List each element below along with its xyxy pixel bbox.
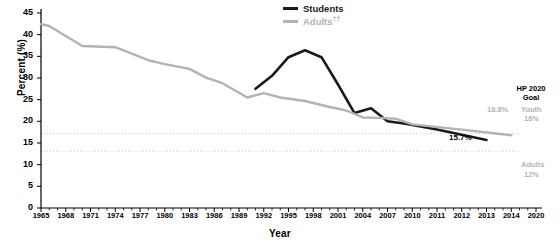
y-tick-label: 0	[7, 203, 33, 212]
legend-label-adults-text: Adults	[303, 17, 333, 28]
youth-goal-value: 16%	[524, 114, 539, 123]
students-last-value-label: 15.7%	[449, 133, 472, 142]
y-tick-label: 30	[7, 73, 33, 82]
legend-swatch-students	[283, 7, 298, 10]
adults-goal-value: 12%	[524, 170, 539, 179]
hp-2020-goal-annotation: HP 2020 Goal	[505, 84, 557, 102]
legend-item-adults[interactable]: Adults††	[283, 15, 344, 28]
legend-label-students: Students	[303, 3, 344, 14]
hp-2020-goal-title: HP 2020	[505, 84, 557, 93]
series-line-adults	[41, 24, 511, 135]
chart-legend: Students Adults††	[283, 2, 344, 28]
y-tick-label: 5	[7, 181, 33, 190]
y-tick-label: 20	[7, 116, 33, 125]
youth-goal-label: Youth	[521, 105, 542, 114]
legend-swatch-adults	[283, 20, 298, 23]
adults-last-value-label: 18.8%	[487, 105, 508, 114]
legend-label-adults-superscript: ††	[333, 15, 341, 22]
y-tick-label: 10	[7, 160, 33, 169]
chart-container: Percent (%) Year 051015202530354045 1965…	[0, 0, 560, 245]
adults-goal-label: Adults	[521, 160, 544, 169]
hp-2020-goal-subtitle: Goal	[505, 93, 557, 102]
legend-item-students[interactable]: Students	[283, 2, 344, 15]
y-tick-label: 45	[7, 8, 33, 17]
y-tick-label: 35	[7, 51, 33, 60]
x-tick-label: 2020	[519, 212, 553, 220]
y-tick-label: 15	[7, 138, 33, 147]
y-tick-label: 25	[7, 95, 33, 104]
series-line-students	[256, 50, 487, 140]
chart-plot-area	[0, 0, 560, 245]
legend-label-adults: Adults††	[303, 15, 340, 27]
y-tick-label: 40	[7, 30, 33, 39]
